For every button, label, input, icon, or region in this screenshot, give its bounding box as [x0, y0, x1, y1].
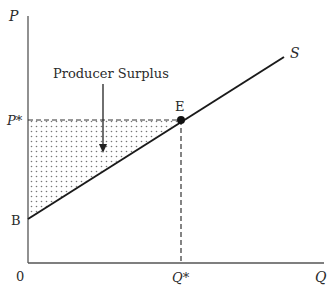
x-axis-label: Q: [315, 269, 327, 285]
equilibrium-point: [177, 116, 185, 124]
intercept-label: B: [11, 213, 21, 228]
price-label: P*: [6, 113, 23, 128]
supply-label: S: [290, 45, 300, 61]
producer-surplus-diagram: P Q 0 P* Q* B E S Producer Surplus: [0, 0, 330, 290]
origin-label: 0: [16, 269, 24, 284]
equilibrium-label: E: [175, 99, 185, 114]
producer-surplus-annotation: Producer Surplus: [53, 66, 169, 81]
y-axis-label: P: [8, 8, 19, 24]
quantity-label: Q*: [172, 270, 190, 285]
